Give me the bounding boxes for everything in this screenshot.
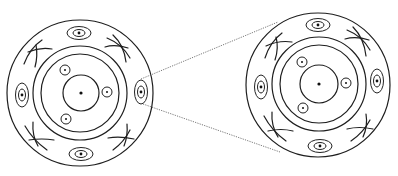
- cross-section-diagram: [0, 0, 398, 176]
- arc: [268, 130, 293, 132]
- arc: [266, 42, 292, 47]
- leader-line-upper: [141, 22, 278, 79]
- right-cross-section: [246, 13, 390, 157]
- small-circle-dot: [64, 69, 66, 71]
- ellipse-dot: [376, 80, 379, 83]
- arc: [25, 126, 47, 150]
- ellipse-dot: [80, 153, 83, 156]
- arc: [345, 38, 369, 40]
- small-circle-dot: [106, 91, 108, 93]
- small-circle-dot: [65, 118, 67, 120]
- ellipse-dot: [78, 32, 81, 35]
- arc: [264, 116, 286, 141]
- right-core-dot: [317, 82, 320, 85]
- magnification-leader-lines: [141, 22, 280, 152]
- ellipse-dot: [317, 24, 320, 27]
- arc: [29, 139, 54, 140]
- diagram-canvas: [0, 0, 398, 176]
- arc: [105, 46, 128, 48]
- left-core-dot: [79, 91, 82, 94]
- small-circle-dot: [302, 107, 304, 109]
- left-cross-section: [7, 20, 153, 166]
- arc: [363, 114, 367, 137]
- arc: [113, 35, 126, 62]
- arc: [108, 137, 134, 139]
- small-circle-dot: [301, 61, 303, 63]
- left-small-circles: [60, 65, 112, 124]
- ellipse-dot: [319, 145, 322, 148]
- arc: [35, 45, 37, 67]
- arc: [347, 128, 373, 130]
- leader-line-lower: [143, 104, 280, 152]
- arc: [275, 37, 277, 60]
- arc: [124, 124, 127, 146]
- small-circle-dot: [345, 82, 347, 84]
- ellipse-dot: [260, 86, 263, 89]
- ellipse-dot: [140, 91, 143, 94]
- ellipse-dot: [21, 94, 24, 97]
